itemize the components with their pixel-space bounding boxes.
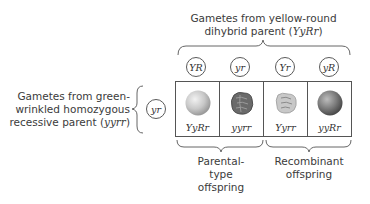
offspring-grid: YyRr yyrr Yyrr yyRr <box>175 81 352 137</box>
offspring-genotype: yyrr <box>220 122 263 133</box>
wrinkled-green-pea-icon <box>228 89 256 117</box>
gamete-circle-Yr: Yr <box>275 57 295 77</box>
top-parent-label: Gametes from yellow-round dihybrid paren… <box>175 12 352 38</box>
top-parent-line2-prefix: dihybrid parent ( <box>204 25 292 37</box>
offspring-cell-Yyrr: Yyrr <box>264 82 308 136</box>
parental-type-label: Parental- type offspring <box>177 155 265 194</box>
wrinkled-yellow-pea-icon <box>272 89 300 117</box>
left-parent-line3: recessive parent (yyrr) <box>0 116 130 129</box>
parental-brace <box>177 140 263 152</box>
gamete-circle-YR: YR <box>186 57 206 77</box>
recombinant-brace <box>266 140 351 152</box>
recombinant-line1: Recombinant <box>266 155 352 168</box>
left-parent-line1: Gametes from green- <box>0 90 130 103</box>
left-parent-label: Gametes from green- wrinkled homozygous … <box>0 90 130 129</box>
offspring-genotype: yyRr <box>308 122 351 133</box>
parental-line3: offspring <box>177 181 265 194</box>
recombinant-line2: offspring <box>266 168 352 181</box>
round-yellow-pea-icon <box>184 89 212 117</box>
parental-line2: type <box>177 168 265 181</box>
recombinant-label: Recombinant offspring <box>266 155 352 181</box>
gamete-circle-yR: yR <box>319 57 339 77</box>
offspring-genotype: Yyrr <box>264 122 307 133</box>
left-parent-line3-prefix: recessive parent ( <box>9 116 104 128</box>
left-parent-genotype: yyrr <box>104 116 126 128</box>
offspring-cell-YyRr: YyRr <box>176 82 220 136</box>
top-parent-genotype: YyRr <box>293 25 319 37</box>
parental-line1: Parental- <box>177 155 265 168</box>
left-parent-line2: wrinkled homozygous <box>0 103 130 116</box>
offspring-cell-yyRr: yyRr <box>308 82 351 136</box>
offspring-cell-yyrr: yyrr <box>220 82 264 136</box>
left-brace <box>132 86 143 133</box>
left-parent-line3-suffix: ) <box>126 116 130 128</box>
top-brace <box>178 40 350 55</box>
round-green-pea-icon <box>316 89 344 117</box>
top-parent-line1: Gametes from yellow-round <box>175 12 352 25</box>
top-parent-line2: dihybrid parent (YyRr) <box>175 25 352 38</box>
top-parent-line2-suffix: ) <box>318 25 322 37</box>
offspring-genotype: YyRr <box>176 122 219 133</box>
gamete-circle-yr: yr <box>230 57 250 77</box>
gamete-circle-left-yr: yr <box>146 99 166 119</box>
